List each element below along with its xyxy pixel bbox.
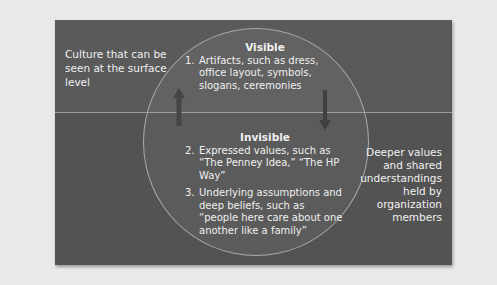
arrow-down-icon [319,90,331,130]
culture-levels-diagram: Culture that can be seen at the surface … [55,20,452,265]
item-number: 1. [185,55,199,93]
list-item: 1. Artifacts, such as dress, office layo… [185,55,345,93]
list-item: 2. Expressed values, such as “The Penney… [185,145,345,183]
invisible-section: Invisible 2. Expressed values, such as “… [185,131,345,237]
arrow-up-icon [173,88,185,126]
visible-section: Visible 1. Artifacts, such as dress, off… [185,41,345,92]
item-text: Artifacts, such as dress, office layout,… [199,55,345,93]
item-text: Underlying assumptions and deep beliefs,… [199,187,345,237]
visible-heading: Visible [185,41,345,54]
item-number: 3. [185,187,199,237]
list-item: 3. Underlying assumptions and deep belie… [185,187,345,237]
deep-level-label: Deeper values and shared understandings … [352,146,442,224]
invisible-heading: Invisible [185,131,345,144]
item-text: Expressed values, such as “The Penney Id… [199,145,345,183]
item-number: 2. [185,145,199,183]
surface-level-label: Culture that can be seen at the surface … [65,47,185,89]
